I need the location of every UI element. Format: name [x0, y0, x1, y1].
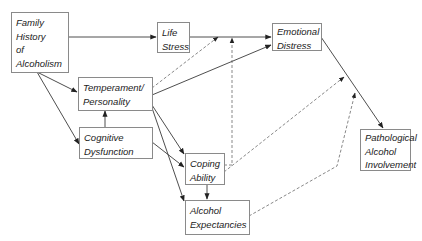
- node-label-line: Temperament/: [83, 81, 148, 95]
- node-label-line: Alcohol: [190, 204, 245, 218]
- edge-temperament-coping: [150, 102, 184, 154]
- node-label-line: Alcohol: [365, 145, 406, 159]
- node-label-line: Expectancies: [190, 218, 245, 232]
- node-label-line: History: [16, 30, 64, 44]
- node-label-line: Alcoholism: [16, 57, 64, 71]
- node-label-line: Distress: [277, 39, 317, 53]
- edge-coping-moderate-pathological: [224, 77, 344, 172]
- edge-emotional-pathological: [321, 37, 383, 128]
- edge-coping-moderate-lifestress: [224, 38, 232, 165]
- edge-temperament-expectancies: [150, 102, 184, 201]
- node-emotional-distress: Emotional Distress: [272, 23, 322, 51]
- node-family-history: Family History of Alcoholism: [11, 12, 69, 73]
- path-diagram: Family History of Alcoholism Life Stress…: [0, 0, 422, 241]
- node-life-stress: Life Stress: [157, 22, 190, 53]
- node-label-line: Ability: [190, 171, 220, 185]
- node-label-line: Personality: [83, 95, 148, 109]
- node-temperament: Temperament/ Personality: [78, 77, 153, 111]
- node-label-line: Family: [16, 16, 64, 30]
- node-label-line: Life: [162, 26, 185, 40]
- node-label-line: Involvement: [365, 158, 406, 172]
- node-alcohol-expectancies: Alcohol Expectancies: [185, 200, 250, 235]
- node-label-line: of: [16, 43, 64, 57]
- node-label-line: Coping: [190, 157, 220, 171]
- node-label-line: Pathological: [365, 131, 406, 145]
- node-label-line: Stress: [162, 40, 185, 54]
- node-pathological-involvement: Pathological Alcohol Involvement: [360, 129, 411, 171]
- edge-cognitive-coping: [152, 142, 184, 167]
- node-cognitive-dysfunction: Cognitive Dysfunction: [79, 127, 153, 159]
- node-coping-ability: Coping Ability: [185, 153, 225, 185]
- edge-expectancies-moderate-pathological: [249, 93, 355, 216]
- node-label-line: Cognitive: [84, 131, 148, 145]
- node-label-line: Dysfunction: [84, 145, 148, 159]
- node-label-line: Emotional: [277, 25, 317, 39]
